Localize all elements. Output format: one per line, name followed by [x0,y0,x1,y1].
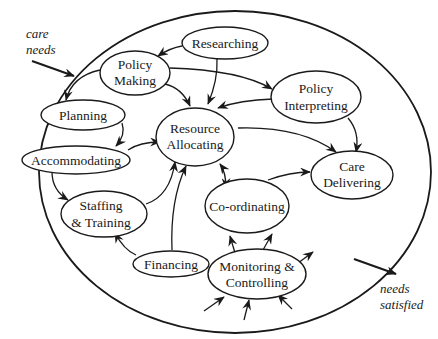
node-resource-allocating: Resource Allocating [156,108,234,166]
edge-financing-resource [172,166,186,250]
edge-monitoring-coordinating-1 [230,236,235,253]
care-needs-label-2: needs [26,42,56,57]
edge-accommodating-staffing [52,172,68,200]
care-needs-label: care [26,26,49,41]
care-needs-arrow [32,61,74,76]
needs-satisfied-label-2: satisfied [380,297,424,312]
output-needs-satisfied: needs satisfied [354,259,424,312]
node-accommodating: Accommodating [22,146,130,174]
edge-interpreting-care-delivering [348,118,357,152]
policy-making-label-2: Making [114,73,156,88]
edge-researching-policy-making [158,46,182,56]
edge-in-monitoring-2 [244,300,249,320]
input-care-needs: care needs [26,26,74,76]
policy-interpreting-label-2: Interpreting [284,98,348,113]
node-monitoring-controlling: Monitoring & Controlling [208,249,306,299]
resource-allocating-label-2: Allocating [167,137,224,152]
node-co-ordinating: Co-ordinating [205,179,289,233]
monitoring-controlling-label-2: Controlling [226,275,289,290]
needs-satisfied-label: needs [380,281,410,296]
accommodating-label: Accommodating [31,153,121,168]
policy-interpreting-label-1: Policy [299,81,334,96]
edge-monitoring-coordinating-2 [263,234,272,250]
policy-making-label-1: Policy [118,57,153,72]
needs-satisfied-arrow [354,259,396,274]
node-policy-interpreting: Policy Interpreting [271,71,361,123]
edge-planning-accommodating [116,123,123,146]
staffing-training-label-2: & Training [71,215,131,230]
planning-label: Planning [59,108,107,123]
edge-staffing-resource [146,162,175,204]
node-care-delivering: Care Delivering [311,151,393,199]
resource-allocating-label-1: Resource [170,121,220,136]
edge-resource-care-delivering [238,128,336,152]
node-researching: Researching [182,27,268,59]
co-ordinating-label: Co-ordinating [209,199,285,214]
edge-coordinating-care-delivering [268,172,310,180]
node-policy-making: Policy Making [100,51,170,95]
staffing-training-label-1: Staffing [79,198,122,213]
edge-accommodating-resource [128,142,160,150]
node-financing: Financing [133,251,209,277]
care-delivering-label-2: Delivering [323,175,381,190]
financing-label: Financing [144,257,198,272]
edge-policy-making-resource [165,84,190,106]
edge-in-monitoring-1 [204,297,224,311]
edge-researching-resource [208,59,217,104]
care-delivering-label-1: Care [339,159,364,174]
edge-policy-making-interpreting [170,68,272,89]
node-planning: Planning [41,100,125,130]
edge-in-monitoring-3 [278,295,292,309]
monitoring-controlling-label-1: Monitoring & [219,259,295,274]
edge-interpreting-resource [218,99,273,108]
researching-label: Researching [192,36,259,51]
care-system-diagram: care needs needs satisfied [0,0,438,339]
node-staffing-training: Staffing & Training [61,191,147,237]
